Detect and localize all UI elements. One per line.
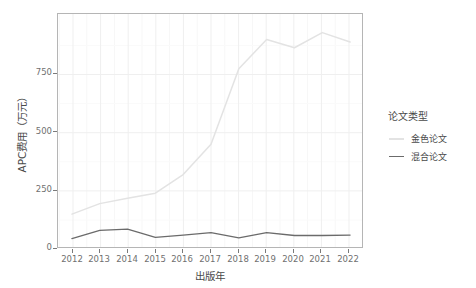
x-tick-mark-2021	[320, 249, 321, 253]
x-tick-mark-2014	[127, 249, 128, 253]
x-tick-mark-2016	[182, 249, 183, 253]
y-tick-label-500: 500	[26, 127, 52, 136]
y-tick-label-0: 0	[26, 243, 52, 252]
y-tick-label-750: 750	[26, 68, 52, 77]
x-axis-title: 出版年	[57, 268, 363, 283]
x-tick-mark-2012	[72, 249, 73, 253]
legend-label-hybrid: 混合论文	[411, 150, 447, 163]
y-tick-label-250: 250	[26, 185, 52, 194]
x-tick-mark-2015	[155, 249, 156, 253]
y-tick-labels: 750 500 250 0	[26, 0, 52, 288]
x-tick-mark-2013	[99, 249, 100, 253]
x-tick-mark-2018	[238, 249, 239, 253]
y-tick-mark-0	[53, 248, 57, 249]
x-tick-mark-2019	[265, 249, 266, 253]
x-tick-mark-2020	[293, 249, 294, 253]
legend-item-hybrid[interactable]: 混合论文	[388, 149, 447, 164]
legend: 论文类型 金色论文 混合论文	[388, 108, 447, 167]
x-tick-mark-2017	[210, 249, 211, 253]
x-tick-label-2022: 2022	[328, 254, 368, 264]
plot-panel	[57, 13, 363, 248]
legend-key-hybrid-icon	[388, 149, 405, 164]
legend-title: 论文类型	[388, 108, 447, 123]
legend-item-gold[interactable]: 金色论文	[388, 131, 447, 146]
plot-area	[58, 14, 363, 248]
legend-key-gold-icon	[388, 131, 405, 146]
x-tick-mark-2022	[348, 249, 349, 253]
chart-figure: APC费用（万元） 750 500 250 0	[0, 0, 476, 288]
legend-label-gold: 金色论文	[411, 132, 447, 145]
